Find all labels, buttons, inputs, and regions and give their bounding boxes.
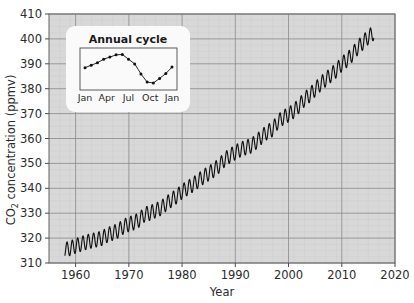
y-tick-label: 390: [20, 57, 42, 71]
inset-marker: [127, 58, 130, 61]
inset-x-tick-labels: JanAprJulOctJan: [77, 92, 180, 103]
inset-marker: [152, 81, 155, 84]
x-tick-label: 2020: [380, 268, 409, 282]
y-tick-label: 340: [20, 181, 42, 195]
x-tick-label: 1960: [61, 268, 90, 282]
inset-marker: [171, 66, 174, 69]
x-tick-label: 1990: [221, 268, 250, 282]
y-tick-label: 310: [20, 256, 42, 270]
x-tick-label: 2000: [274, 268, 303, 282]
inset-marker: [84, 66, 87, 69]
inset-marker: [158, 77, 161, 80]
inset-x-tick-label: Oct: [142, 92, 159, 103]
y-tick-label: 410: [20, 7, 42, 21]
inset-marker: [164, 72, 167, 75]
inset-marker: [108, 56, 111, 59]
inset-x-tick-label: Jan: [164, 92, 180, 103]
y-tick-label: 360: [20, 132, 42, 146]
inset-x-tick-label: Jul: [122, 92, 134, 103]
x-tick-label: 2010: [327, 268, 356, 282]
y-tick-label: 370: [20, 107, 42, 121]
inset-marker: [96, 61, 99, 64]
y-tick-label: 320: [20, 231, 42, 245]
y-tick-label: 330: [20, 206, 42, 220]
inset-marker: [90, 64, 93, 67]
inset-marker: [139, 72, 142, 75]
inset-plot-frame: [80, 48, 177, 90]
x-axis-title: Year: [209, 285, 235, 299]
inset-marker: [121, 53, 124, 56]
inset-marker: [133, 62, 136, 65]
annual-cycle-inset: Annual cycle JanAprJulOctJan: [66, 26, 190, 112]
y-tick-label: 350: [20, 156, 42, 170]
y-axis-title-main: CO: [4, 208, 18, 225]
y-tick-label: 380: [20, 82, 42, 96]
x-tick-label: 1980: [167, 268, 196, 282]
inset-x-tick-label: Apr: [99, 92, 116, 103]
y-axis-title: CO2 concentration (ppmv): [4, 75, 20, 226]
x-tick-label: 1970: [114, 268, 143, 282]
svg-text:CO2 concentration (ppmv): CO2 concentration (ppmv): [4, 75, 20, 226]
inset-marker: [146, 81, 149, 84]
inset-x-tick-label: Jan: [77, 92, 93, 103]
chart-svg: 310320330340350360370380390400410 196019…: [0, 0, 414, 303]
inset-title: Annual cycle: [89, 33, 167, 46]
inset-marker: [115, 53, 118, 56]
y-tick-label: 400: [20, 32, 42, 46]
y-axis-title-rest: concentration (ppmv): [4, 75, 18, 204]
co2-chart-figure: 310320330340350360370380390400410 196019…: [0, 0, 414, 303]
inset-marker: [102, 58, 105, 61]
